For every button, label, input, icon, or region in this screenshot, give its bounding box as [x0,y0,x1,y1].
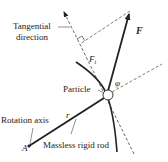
angle-phi-label: φ [115,78,120,88]
point-a-dot [27,144,30,147]
tangential-force-label: Ft [88,54,97,65]
rod-leader [71,119,76,134]
trajectory-curve [76,62,117,152]
point-a-label: A [21,143,28,153]
tangential-label-line2: direction [16,32,48,42]
particle-label: Particle [63,84,91,94]
rotation-axis-leader [30,128,33,144]
particle [103,90,113,100]
rotation-axis-label: Rotation axis [1,115,49,125]
rotation-diagram: Tangential direction F Ft φ Particle Rot… [0,0,168,162]
tangential-label-line1: Tangential [13,21,51,31]
force-label: F [135,25,143,36]
rod-label: Massless rigid rod [43,140,109,150]
radius-label: r [66,110,70,120]
